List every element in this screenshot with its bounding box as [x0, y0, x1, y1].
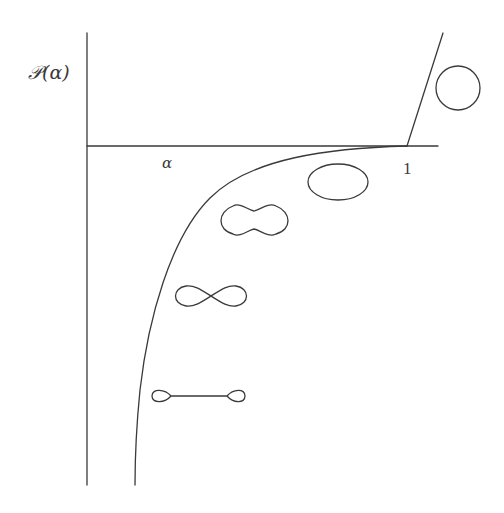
branch-line-alpha-gt-1: [407, 33, 443, 146]
p-alpha-curve: [135, 146, 407, 485]
diagram-canvas: 𝒫(α) α 1: [0, 0, 504, 513]
shape-peanut-icon: [221, 205, 288, 235]
y-axis-label: 𝒫(α): [28, 61, 70, 83]
x-axis-label: α: [162, 154, 172, 172]
shape-dumbbell-icon: [152, 390, 245, 401]
shape-ellipse-icon: [308, 164, 368, 200]
shape-circle-icon: [436, 66, 480, 110]
x-tick-label-one: 1: [403, 159, 412, 178]
shape-figure-eight-icon: [176, 286, 247, 306]
